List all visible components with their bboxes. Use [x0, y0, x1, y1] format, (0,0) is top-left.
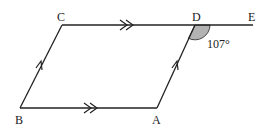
label-c: C — [57, 10, 65, 24]
label-d: D — [192, 10, 201, 24]
segment-ad — [157, 25, 195, 108]
angle-label-107: 107° — [207, 37, 230, 51]
label-a: A — [152, 113, 161, 127]
parallelogram-diagram: C D E B A 107° — [0, 0, 270, 130]
segment-bc — [20, 25, 62, 108]
label-e: E — [248, 10, 255, 24]
label-b: B — [15, 113, 23, 127]
single-arrow-icon-bc — [36, 61, 42, 70]
